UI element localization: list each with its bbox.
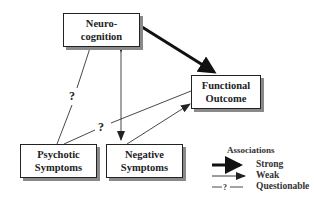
- legend-questionable-mark: ?: [223, 183, 227, 192]
- edge-strong-neuro-functional: [142, 27, 214, 72]
- node-negative-symptoms-line1: Negative: [125, 148, 164, 161]
- node-psychotic-symptoms-line2: Symptoms: [35, 161, 82, 174]
- node-neurocognition: Neuro- cognition: [63, 13, 140, 47]
- node-functional-outcome-line1: Functional: [202, 79, 250, 92]
- question-mark-neuro-psychotic: ?: [69, 89, 75, 104]
- node-neurocognition-line1: Neuro-: [86, 17, 117, 30]
- edge-questionable-psychotic-functional-lower: [64, 130, 95, 144]
- edge-questionable-neuro-psychotic-lower: [57, 105, 72, 144]
- node-negative-symptoms-line2: Symptoms: [121, 161, 168, 174]
- legend-weak-label: Weak: [256, 170, 279, 180]
- legend-strong-label: Strong: [256, 159, 283, 169]
- node-psychotic-symptoms-line1: Psychotic: [37, 148, 80, 161]
- question-mark-psychotic-functional: ?: [98, 120, 104, 135]
- node-negative-symptoms: Negative Symptoms: [106, 144, 183, 178]
- node-psychotic-symptoms: Psychotic Symptoms: [20, 144, 97, 178]
- edge-weak-negative-functional: [127, 104, 190, 144]
- edge-questionable-neuro-psychotic-upper: [77, 48, 90, 88]
- edge-questionable-psychotic-functional-upper: [111, 91, 191, 123]
- node-functional-outcome: Functional Outcome: [191, 75, 261, 109]
- legend-title: Associations: [227, 145, 275, 155]
- node-functional-outcome-line2: Outcome: [206, 92, 247, 105]
- node-neurocognition-line2: cognition: [81, 30, 122, 43]
- legend-questionable-label: Questionable: [256, 181, 309, 191]
